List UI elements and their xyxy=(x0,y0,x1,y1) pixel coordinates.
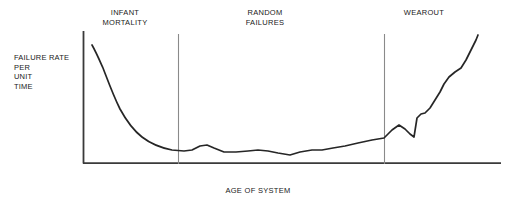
failure-rate-curve xyxy=(92,35,478,155)
plot-area xyxy=(0,0,516,208)
bathtub-curve-figure: INFANT MORTALITY RANDOM FAILURES WEAROUT… xyxy=(0,0,516,208)
